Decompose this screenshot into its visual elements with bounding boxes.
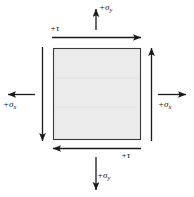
label-sigma-y-bottom-subscript: y: [108, 174, 111, 181]
label-tau-top-text: +τ: [50, 23, 59, 33]
label-sigma-y-top-subscript: y: [110, 6, 113, 13]
label-sigma-y-bottom-text: +σ: [97, 170, 108, 180]
label-sigma-x-left-text: +σ: [3, 99, 14, 109]
stress-element-square: [54, 49, 141, 140]
label-sigma-x-left: +σx: [3, 100, 16, 109]
label-tau-bottom: +τ: [121, 151, 130, 160]
label-sigma-y-top: +σy: [99, 3, 112, 12]
label-sigma-x-right-subscript: x: [169, 103, 172, 110]
label-sigma-x-right: +σx: [158, 100, 171, 109]
label-sigma-y-bottom: +σy: [97, 171, 110, 180]
label-sigma-y-top-text: +σ: [99, 2, 110, 12]
label-sigma-x-left-subscript: x: [14, 103, 17, 110]
stress-element-figure: +σy +τ +σx +σx +τ +σy: [0, 0, 194, 197]
label-tau-top: +τ: [50, 24, 59, 33]
label-sigma-x-right-text: +σ: [158, 99, 169, 109]
label-tau-bottom-text: +τ: [121, 150, 130, 160]
